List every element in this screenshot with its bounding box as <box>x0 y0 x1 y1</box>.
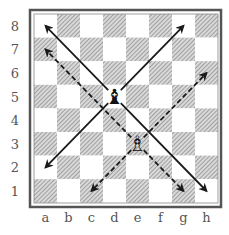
file-label-a: a <box>42 210 50 225</box>
file-label-b: b <box>64 210 72 225</box>
square-d1 <box>103 179 126 203</box>
square-a6 <box>34 61 57 85</box>
rank-label-6: 6 <box>11 66 19 81</box>
square-d8 <box>103 14 126 38</box>
square-h2 <box>195 156 218 180</box>
square-e7 <box>126 38 149 62</box>
square-h7 <box>195 38 218 62</box>
square-a7 <box>34 38 57 62</box>
white-bishop-icon: ♗ <box>128 132 147 156</box>
square-h3 <box>195 132 218 156</box>
square-b5 <box>57 85 80 109</box>
square-c8 <box>80 14 103 38</box>
square-g4 <box>172 108 195 132</box>
square-c3 <box>80 132 103 156</box>
square-a5 <box>34 85 57 109</box>
square-c2 <box>80 156 103 180</box>
file-label-f: f <box>158 210 164 225</box>
square-a4 <box>34 108 57 132</box>
file-label-d: d <box>110 210 118 225</box>
square-e8 <box>126 14 149 38</box>
black-bishop-icon: ♝ <box>105 85 124 109</box>
square-h4 <box>195 108 218 132</box>
square-b2 <box>57 156 80 180</box>
square-a1 <box>34 179 57 203</box>
square-d6 <box>103 61 126 85</box>
chess-diagram: ♝♗ 87654321 abcdefgh <box>0 0 229 235</box>
rank-label-4: 4 <box>11 113 19 128</box>
rank-label-5: 5 <box>11 90 19 105</box>
file-label-e: e <box>134 210 142 225</box>
square-d7 <box>103 38 126 62</box>
square-f1 <box>149 179 172 203</box>
square-e1 <box>126 179 149 203</box>
square-f5 <box>149 85 172 109</box>
square-h8 <box>195 14 218 38</box>
rank-label-7: 7 <box>11 42 19 57</box>
square-h5 <box>195 85 218 109</box>
file-labels: abcdefgh <box>42 210 212 225</box>
square-g6 <box>172 61 195 85</box>
rank-label-8: 8 <box>11 19 19 34</box>
square-f6 <box>149 61 172 85</box>
rank-label-2: 2 <box>11 160 19 175</box>
square-f8 <box>149 14 172 38</box>
rank-label-3: 3 <box>11 137 19 152</box>
square-d3 <box>103 132 126 156</box>
square-e2 <box>126 156 149 180</box>
square-e5 <box>126 85 149 109</box>
file-label-c: c <box>88 210 95 225</box>
rank-labels: 87654321 <box>11 19 19 199</box>
square-g3 <box>172 132 195 156</box>
rank-label-1: 1 <box>11 184 19 199</box>
file-label-g: g <box>179 210 187 225</box>
square-c7 <box>80 38 103 62</box>
square-b1 <box>57 179 80 203</box>
square-b4 <box>57 108 80 132</box>
square-g7 <box>172 38 195 62</box>
square-a3 <box>34 132 57 156</box>
file-label-h: h <box>202 210 211 225</box>
square-b8 <box>57 14 80 38</box>
